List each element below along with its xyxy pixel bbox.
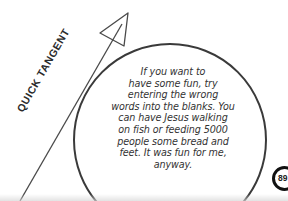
bubble-line: feet. It was fun for me,: [84, 147, 262, 159]
bubble-line: words into the blanks. You: [84, 101, 262, 113]
arrow-up-right-icon: [100, 13, 128, 46]
page-number: 89: [278, 172, 287, 184]
page-bottom-shadow: [0, 194, 288, 201]
bubble-line: anyway.: [84, 159, 262, 171]
book-page: QUICK TANGENT If you want to have some f…: [0, 0, 288, 201]
bubble-line: entering the wrong: [84, 89, 262, 101]
bubble-line: If you want to: [84, 66, 262, 78]
bubble-line: can have Jesus walking: [84, 112, 262, 124]
bubble-text: If you want to have some fun, try enteri…: [84, 66, 262, 170]
bubble-line: have some fun, try: [84, 78, 262, 90]
bubble-line: people some bread and: [84, 136, 262, 148]
bubble-line: on fish or feeding 5000: [84, 124, 262, 136]
